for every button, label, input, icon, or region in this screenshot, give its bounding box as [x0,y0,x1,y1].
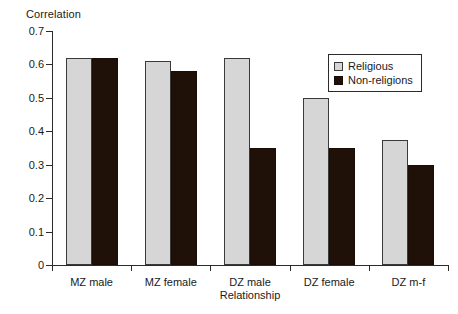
x-axis-category-label: DZ m-f [392,276,426,288]
x-axis-tick [290,265,291,271]
y-axis-title: Correlation [26,8,81,20]
bar [303,98,329,265]
correlation-bar-chart: Correlation 00.10.20.30.40.50.60.7 MZ ma… [0,0,458,314]
legend-item-non-religions: Non-religions [334,73,413,87]
bar [408,165,434,265]
y-axis-tick-label: 0 [2,260,44,271]
bar-group [224,31,276,265]
bar [224,58,250,265]
x-axis-tick [210,265,211,271]
y-axis-tick-label: 0.5 [2,92,44,103]
bar [145,61,171,265]
x-axis-tick [52,265,53,271]
y-axis-tick-label: 0.3 [2,159,44,170]
legend-label-non-religions: Non-religions [348,75,413,86]
x-axis-category-label: MZ male [70,276,113,288]
y-axis-tick-label: 0.1 [2,226,44,237]
legend-label-religious: Religious [348,61,393,72]
bar-group [66,31,118,265]
bar [250,148,276,265]
bar [92,58,118,265]
bar [171,71,197,265]
y-axis-tick-label: 0.4 [2,126,44,137]
x-axis-title: Relationship [220,289,281,301]
bar-group [145,31,197,265]
bar [382,140,408,265]
legend-item-religious: Religious [334,59,413,73]
x-axis-category-label: DZ female [304,276,355,288]
bar [329,148,355,265]
legend-swatch-non-religions-icon [334,76,343,85]
x-axis-category-label: DZ male [229,276,271,288]
y-axis-tick-label: 0.7 [2,26,44,37]
chart-legend: Religious Non-religions [328,54,422,92]
y-axis-tick-label: 0.6 [2,59,44,70]
x-axis-tick [131,265,132,271]
x-axis-line [52,265,448,266]
bar [66,58,92,265]
x-axis-category-label: MZ female [145,276,197,288]
legend-swatch-religious-icon [334,62,343,71]
x-axis-tick [369,265,370,271]
y-axis-tick-label: 0.2 [2,193,44,204]
x-axis-tick [448,265,449,271]
